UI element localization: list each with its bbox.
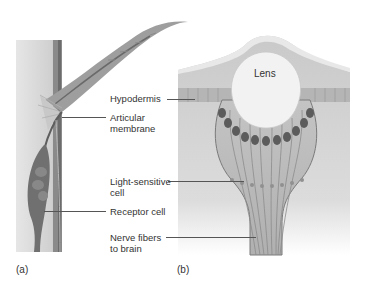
label-articular-membrane-line1: Articular: [110, 112, 155, 123]
panel-a-illustration: [16, 22, 188, 252]
label-articular-membrane-line2: membrane: [110, 123, 155, 134]
label-nerve-fibers: Nerve fibers to brain: [110, 232, 161, 254]
diagram-illustration: [0, 0, 366, 293]
panel-a-tag: (a): [16, 264, 28, 275]
label-nerve-fibers-line2: to brain: [110, 243, 161, 254]
label-hypodermis: Hypodermis: [110, 93, 161, 104]
figure: Lens Hypodermis Articular membrane Light…: [0, 0, 366, 293]
label-light-sensitive-cell-line1: Light-sensitive: [110, 176, 171, 187]
leader-receptor-cell: [44, 211, 106, 212]
label-lens: Lens: [254, 68, 276, 79]
leader-nerve-fibers: [166, 237, 256, 238]
leader-hypodermis: [167, 99, 195, 100]
label-light-sensitive-cell-line2: cell: [110, 187, 171, 198]
label-light-sensitive-cell: Light-sensitive cell: [110, 176, 171, 198]
label-receptor-cell: Receptor cell: [110, 206, 165, 217]
panel-b-tag: (b): [177, 264, 189, 275]
leader-articular-membrane: [62, 117, 106, 118]
label-nerve-fibers-line1: Nerve fibers: [110, 232, 161, 243]
label-articular-membrane: Articular membrane: [110, 112, 155, 134]
leader-light-sensitive-cell: [168, 181, 244, 182]
